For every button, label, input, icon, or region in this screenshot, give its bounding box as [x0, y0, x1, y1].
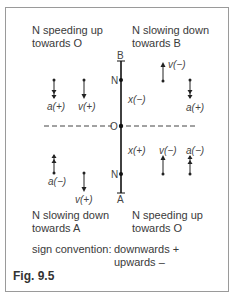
heading-tl-line1: N speeding up	[32, 24, 103, 37]
label-br-v: v(−)	[159, 145, 177, 156]
label-x-lower: x(+)	[128, 145, 146, 156]
label-tr-a: a(+)	[186, 102, 204, 113]
point-n-lower	[119, 172, 123, 176]
arrow-tr-a	[188, 79, 193, 100]
heading-bl-line1: N slowing down	[32, 209, 109, 222]
label-bl-v: v(+)	[75, 194, 93, 205]
axis-label-o: O	[110, 121, 118, 132]
label-tl-v: v(+)	[78, 101, 96, 112]
heading-tl-line2: towards O	[32, 37, 82, 50]
point-n-upper	[119, 78, 123, 82]
axis-label-n-lower: N	[111, 169, 118, 180]
label-bl-a: a(−)	[48, 176, 66, 187]
sign-convention-down: downwards +	[114, 243, 179, 256]
axis-label-b: B	[117, 50, 124, 61]
arrow-br-a	[188, 155, 193, 176]
label-br-a: a(−)	[186, 145, 204, 156]
axis-label-n-upper: N	[111, 75, 118, 86]
label-tr-v: v(−)	[168, 59, 186, 70]
heading-br-line2: towards O	[132, 222, 182, 235]
point-o	[119, 124, 123, 128]
sign-convention-up: upwards –	[114, 256, 165, 269]
arrow-bl-a	[52, 154, 57, 175]
arrow-tr-v	[161, 62, 166, 83]
arrow-br-v	[161, 155, 166, 176]
sign-convention-label: sign convention:	[32, 243, 112, 256]
heading-tr-line1: N slowing down	[132, 24, 209, 37]
figure-caption: Fig. 9.5	[13, 269, 54, 283]
axis-label-a: A	[117, 194, 124, 205]
heading-bl-line2: towards A	[32, 222, 80, 235]
arrow-bl-v	[82, 172, 87, 193]
arrow-tl-v	[82, 79, 87, 100]
arrow-tl-a	[52, 79, 57, 100]
heading-tr-line2: towards B	[132, 37, 181, 50]
label-x-upper: x(−)	[128, 94, 146, 105]
label-tl-a: a(+)	[47, 101, 65, 112]
heading-br-line1: N speeding up	[132, 209, 203, 222]
